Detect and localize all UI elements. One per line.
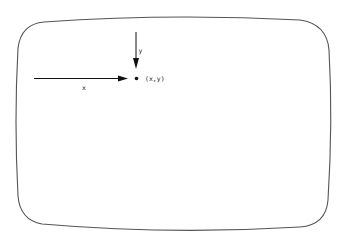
point-dot: [135, 77, 139, 81]
x-label: x: [82, 84, 86, 92]
x-arrow: [34, 76, 128, 82]
screen-frame: [16, 17, 331, 230]
point-label: (x,y): [145, 75, 165, 83]
coordinate-diagram: x y (x,y): [0, 0, 346, 243]
x-arrowhead-icon: [118, 76, 128, 82]
y-label: y: [139, 47, 143, 55]
y-arrowhead-icon: [133, 58, 139, 69]
